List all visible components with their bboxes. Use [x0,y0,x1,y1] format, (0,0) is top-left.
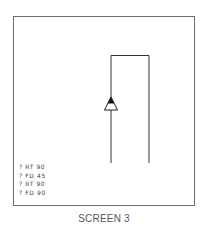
command-line: ? FD 90 [19,189,46,198]
turtle-icon [105,97,118,110]
command-line: ? RT 90 [19,163,46,172]
command-line: ? RT 90 [19,180,46,189]
command-line: ? FD 45 [19,172,46,181]
command-log: ? RT 90 ? FD 45 ? RT 90 ? FD 90 [19,163,46,198]
screen-caption: SCREEN 3 [0,213,208,224]
